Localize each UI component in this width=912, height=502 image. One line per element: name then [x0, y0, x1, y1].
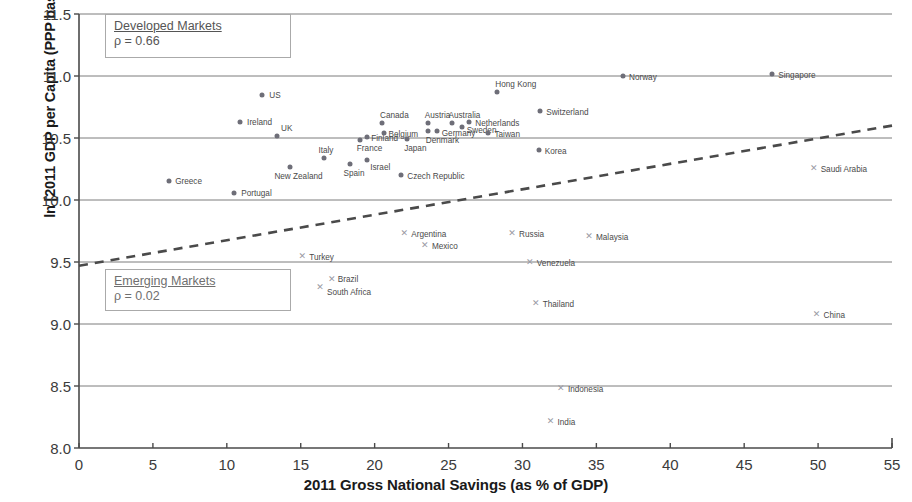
dot-marker-icon	[434, 128, 439, 133]
annotation-emerging-rho: ρ = 0.02	[114, 289, 282, 304]
dot-marker-icon	[357, 138, 362, 143]
data-point: ✕	[585, 232, 593, 240]
x-marker-icon: ✕	[421, 241, 429, 249]
data-point-label: India	[558, 418, 576, 427]
x-tick-label: 30	[514, 456, 531, 473]
dot-marker-icon	[260, 92, 265, 97]
data-point-label: UK	[281, 124, 292, 133]
plot-canvas	[0, 0, 912, 502]
data-point: ✕	[328, 275, 336, 283]
data-point	[770, 71, 775, 76]
data-point-label: Norway	[629, 73, 657, 82]
data-point-label: Taiwan	[494, 130, 520, 139]
data-point: ✕	[421, 241, 429, 249]
data-point-label: Argentina	[411, 230, 446, 239]
data-point-label: Mexico	[432, 242, 458, 251]
data-point-label: Spain	[344, 169, 365, 178]
annotation-developed-title: Developed Markets	[114, 19, 282, 34]
dot-marker-icon	[620, 74, 625, 79]
dot-marker-icon	[347, 162, 352, 167]
gridlines	[79, 14, 892, 386]
data-point-label: Brazil	[338, 275, 358, 284]
x-marker-icon: ✕	[813, 310, 821, 318]
data-point	[399, 173, 404, 178]
dot-marker-icon	[449, 121, 454, 126]
dot-marker-icon	[365, 134, 370, 139]
dot-marker-icon	[459, 124, 464, 129]
y-tick-label: 10.5	[1, 130, 71, 147]
x-tick-label: 55	[884, 456, 901, 473]
data-point-label: Japan	[404, 144, 426, 153]
x-marker-icon: ✕	[328, 275, 336, 283]
axis-lines	[79, 14, 892, 448]
x-tick-label: 50	[810, 456, 827, 473]
dot-marker-icon	[495, 90, 500, 95]
data-point-label: Venezuela	[537, 259, 575, 268]
scatter-chart: ln [2011 GDP per Capita (PPP basis, Curr…	[0, 0, 912, 502]
x-marker-icon: ✕	[298, 252, 306, 260]
dot-marker-icon	[399, 173, 404, 178]
data-point	[167, 179, 172, 184]
x-marker-icon: ✕	[400, 229, 408, 237]
dot-marker-icon	[381, 131, 386, 136]
y-tick-label: 9.5	[1, 254, 71, 271]
data-point	[380, 121, 385, 126]
data-point-label: Singapore	[778, 71, 815, 80]
x-tick-label: 20	[366, 456, 383, 473]
x-marker-icon: ✕	[508, 229, 516, 237]
x-marker-icon: ✕	[526, 258, 534, 266]
data-point	[275, 133, 280, 138]
data-point-label: Czech Republic	[407, 172, 464, 181]
data-point: ✕	[547, 417, 555, 425]
dot-marker-icon	[536, 148, 541, 153]
x-tick-label: 25	[440, 456, 457, 473]
data-point-label: Malaysia	[596, 233, 628, 242]
data-point	[322, 155, 327, 160]
data-point	[620, 74, 625, 79]
data-point-label: Saudi Arabia	[821, 165, 867, 174]
dot-marker-icon	[365, 158, 370, 163]
data-point	[536, 148, 541, 153]
data-point-label: Belgium	[389, 130, 419, 139]
data-point-label: Canada	[380, 111, 409, 120]
data-point-label: Greece	[175, 177, 202, 186]
data-point: ✕	[508, 229, 516, 237]
data-point	[405, 137, 410, 142]
data-point-label: Israel	[370, 163, 390, 172]
data-point-label: Korea	[545, 147, 567, 156]
x-marker-icon: ✕	[316, 283, 324, 291]
y-tick-label: 11.5	[1, 6, 71, 23]
data-point: ✕	[400, 229, 408, 237]
data-point-label: Russia	[519, 230, 544, 239]
data-point	[260, 92, 265, 97]
data-point	[238, 119, 243, 124]
dot-marker-icon	[288, 164, 293, 169]
data-point	[288, 164, 293, 169]
y-tick-label: 8.5	[1, 378, 71, 395]
annotation-developed-rho: ρ = 0.66	[114, 34, 282, 49]
x-tick-label: 0	[75, 456, 83, 473]
dot-marker-icon	[238, 119, 243, 124]
data-point	[381, 131, 386, 136]
data-point	[495, 90, 500, 95]
y-tick-label: 8.0	[1, 440, 71, 457]
data-point: ✕	[810, 164, 818, 172]
data-point-label: Indonesia	[568, 385, 604, 394]
dot-marker-icon	[538, 108, 543, 113]
dot-marker-icon	[467, 119, 472, 124]
data-point: ✕	[316, 283, 324, 291]
dot-marker-icon	[232, 190, 237, 195]
data-point-label: China	[824, 311, 845, 320]
data-point	[347, 162, 352, 167]
x-marker-icon: ✕	[547, 417, 555, 425]
dot-marker-icon	[425, 128, 430, 133]
x-tick-label: 10	[218, 456, 235, 473]
dot-marker-icon	[380, 121, 385, 126]
data-point-label: Netherlands	[475, 119, 519, 128]
x-tick-label: 45	[736, 456, 753, 473]
data-point-label: New Zealand	[274, 172, 322, 181]
x-marker-icon: ✕	[810, 164, 818, 172]
data-point	[449, 121, 454, 126]
x-marker-icon: ✕	[532, 299, 540, 307]
data-point-label: Thailand	[543, 300, 574, 309]
